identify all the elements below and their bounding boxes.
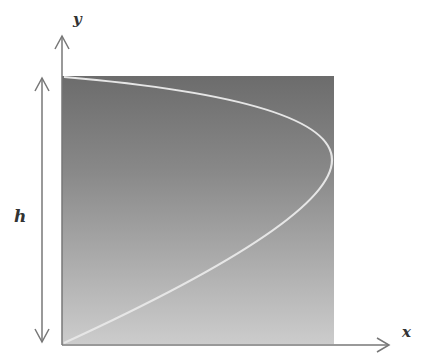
y-axis-label: y (72, 10, 83, 28)
velocity-profile-diagram: y x h (0, 0, 423, 363)
height-dimension-arrow (35, 78, 49, 342)
x-axis-label: x (401, 323, 412, 341)
height-label: h (14, 206, 26, 226)
channel-region (62, 76, 334, 344)
